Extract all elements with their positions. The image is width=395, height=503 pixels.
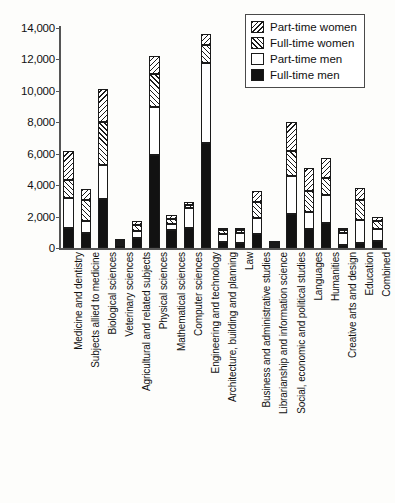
y-axis-tick-label: 4,000 (0, 179, 55, 191)
bar-group (372, 217, 382, 248)
bar-segment (81, 221, 91, 234)
bar-segment (98, 165, 108, 200)
bar-segment (304, 229, 314, 248)
bar-segment (218, 230, 228, 234)
bar-segment (235, 230, 245, 233)
y-axis-tick-label: 12,000 (0, 53, 55, 65)
x-axis-category-label: Law (244, 252, 255, 270)
bar-segment (269, 241, 279, 243)
bar-group (115, 239, 125, 248)
x-axis-category-label: Biological sciences (107, 252, 118, 335)
x-axis-category-label: Languages (313, 252, 324, 301)
chart-legend: Part-time womenFull-time womenPart-time … (245, 14, 365, 88)
bar-segment (218, 228, 228, 230)
x-axis-category-label: Mathematical sciences (176, 252, 187, 351)
legend-item: Full-time men (251, 67, 357, 83)
legend-item: Full-time women (251, 35, 357, 51)
bar-segment (304, 212, 314, 229)
legend-swatch-icon (251, 21, 264, 33)
bar-segment (338, 230, 348, 233)
x-axis-category-label: Librarianship and information science (278, 252, 289, 414)
bar-segment (304, 168, 314, 192)
legend-item-label: Full-time men (270, 69, 340, 81)
bar-segment (372, 221, 382, 229)
x-axis-category-label: Subjects allied to medicine (90, 252, 101, 368)
legend-item-label: Full-time women (270, 37, 354, 49)
bar-group (98, 89, 108, 249)
bar-segment (235, 233, 245, 242)
bar-group (286, 122, 296, 248)
x-axis-category-label: Business and administrative studies (261, 252, 272, 407)
bar-segment (81, 233, 91, 248)
x-axis-category-label: Computer sciences (193, 252, 204, 336)
bar-segment (218, 234, 228, 242)
y-axis-tick-label: 0 (0, 242, 55, 254)
x-axis-category-label: Humanities (330, 252, 341, 301)
bar-segment (166, 224, 176, 230)
x-axis-category-label: Social, economic and political studies (296, 252, 307, 414)
bar-segment (286, 151, 296, 176)
bar-segment (63, 198, 73, 229)
bar-group (269, 243, 279, 249)
x-axis-category-label: Engineering and technology (210, 252, 221, 373)
bar-segment (149, 155, 159, 249)
bar-segment (269, 246, 279, 248)
bar-segment (286, 214, 296, 248)
bar-segment (235, 228, 245, 230)
legend-item-label: Part-time men (270, 53, 342, 65)
legend-swatch-icon (251, 37, 264, 49)
bar-group (235, 228, 245, 248)
bar-segment (132, 225, 142, 231)
bar-segment (184, 202, 194, 204)
bar-segment (252, 234, 262, 248)
bar-segment (132, 238, 142, 248)
bar-segment (115, 239, 125, 241)
stacked-bar-chart: 02,0004,0006,0008,00010,00012,00014,000 … (0, 0, 395, 503)
bar-segment (304, 191, 314, 211)
bar-segment (63, 228, 73, 248)
bar-segment (166, 215, 176, 219)
x-axis-category-label: Agricultural and related subjects (141, 252, 152, 391)
bar-segment (201, 63, 211, 143)
bar-segment (372, 241, 382, 248)
y-axis-tick-label: 10,000 (0, 85, 55, 97)
x-axis-line (59, 248, 387, 250)
bar-segment (252, 191, 262, 202)
bar-segment (184, 205, 194, 208)
bar-segment (132, 231, 142, 238)
bar-group (81, 189, 91, 248)
x-axis-category-label: Architecture, building and planning (227, 252, 238, 402)
bar-segment (63, 180, 73, 198)
bar-segment (81, 200, 91, 220)
bar-segment (98, 199, 108, 248)
bar-group (321, 158, 331, 248)
bar-group (132, 221, 142, 248)
bar-segment (286, 122, 296, 150)
bar-segment (286, 176, 296, 215)
bar-group (184, 202, 194, 248)
y-axis-tick-label: 6,000 (0, 148, 55, 160)
bar-segment (63, 151, 73, 180)
bar-segment (321, 158, 331, 178)
y-axis-tick-label: 14,000 (0, 22, 55, 34)
bar-segment (355, 243, 365, 248)
y-axis-tick-label: 2,000 (0, 211, 55, 223)
bar-segment (166, 219, 176, 225)
bar-segment (235, 243, 245, 249)
legend-swatch-icon (251, 69, 264, 81)
x-axis-category-label: Creative arts and design (347, 252, 358, 358)
bar-segment (149, 107, 159, 154)
bar-group (338, 228, 348, 248)
x-axis-category-label: Combined (381, 252, 392, 297)
bar-segment (201, 45, 211, 62)
legend-swatch-icon (251, 53, 264, 65)
bar-segment (184, 208, 194, 228)
legend-item: Part-time women (251, 19, 357, 35)
bar-group (63, 151, 73, 248)
bar-segment (372, 229, 382, 241)
bar-group (218, 228, 228, 248)
bar-segment (98, 89, 108, 122)
bar-segment (218, 242, 228, 248)
bar-segment (338, 233, 348, 245)
x-axis-category-labels: Medicine and dentistrySubjects allied to… (60, 252, 386, 502)
